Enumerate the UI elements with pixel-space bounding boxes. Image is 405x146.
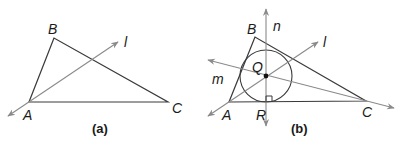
angle-bisector-l	[208, 42, 318, 116]
caption-b: (b)	[291, 121, 308, 136]
incenter-point-q	[264, 74, 269, 79]
line-label-m: m	[212, 71, 224, 87]
figure-b: B n l m Q A R C (b)	[208, 9, 394, 136]
vertex-label-a: A	[221, 107, 231, 123]
point-label-q: Q	[252, 59, 263, 75]
point-label-r: R	[256, 107, 266, 123]
triangle-abc	[229, 37, 366, 102]
vertex-label-c: C	[172, 100, 183, 116]
line-label-n: n	[273, 18, 281, 34]
caption-a: (a)	[92, 121, 108, 136]
figure-a: B l A C (a)	[8, 21, 183, 136]
line-label-l: l	[124, 34, 128, 50]
geometry-figure: B l A C (a) B n l m Q A R C (b)	[0, 0, 405, 146]
triangle-abc	[29, 38, 168, 102]
vertex-label-c: C	[362, 104, 373, 120]
line-label-l: l	[323, 34, 327, 50]
vertex-label-b: B	[247, 21, 256, 37]
vertex-label-a: A	[22, 107, 32, 123]
angle-bisector-l	[8, 42, 118, 116]
vertex-label-b: B	[48, 21, 57, 37]
